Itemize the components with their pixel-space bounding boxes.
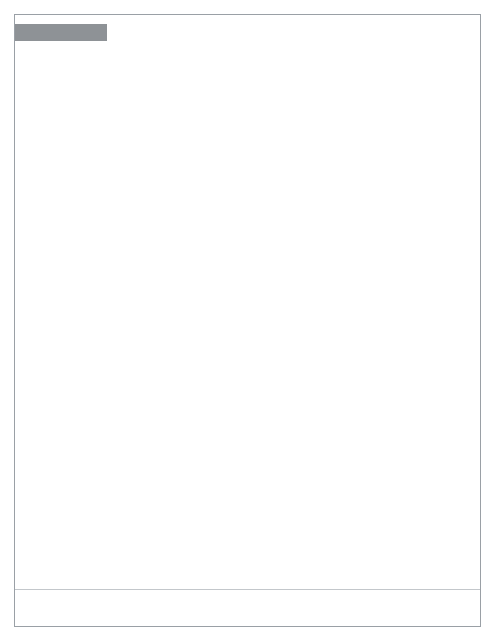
chart-rates [30, 66, 470, 326]
footer-divider [15, 589, 480, 590]
figure-page [0, 0, 495, 641]
figure-number-badge [15, 24, 107, 41]
chart-natural-increase [30, 342, 470, 587]
figure-header [15, 15, 480, 58]
